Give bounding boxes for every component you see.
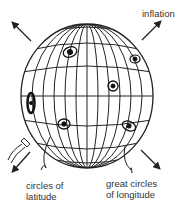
galaxies xyxy=(28,45,141,133)
longitude-label-line2: of longitude xyxy=(106,189,157,200)
galaxy-icon xyxy=(130,55,140,63)
latitude-label-line1: circles of xyxy=(26,180,63,191)
arrow-bottom-right xyxy=(141,150,158,167)
great-circles-of-longitude-label: great circles of longitude xyxy=(106,178,157,200)
arrow-top-left xyxy=(14,24,31,41)
arrow-top-right xyxy=(142,23,159,40)
galaxy-icon xyxy=(62,45,79,59)
balloon-globe-diagram xyxy=(0,0,188,209)
inflation-label: inflation xyxy=(142,8,175,19)
galaxy-icon xyxy=(108,81,118,91)
globe xyxy=(20,24,154,168)
longitude-label-line1: great circles xyxy=(106,178,157,189)
pump-nozzle xyxy=(8,138,30,163)
galaxy-icon xyxy=(58,119,70,129)
circles-of-latitude-label: circles of latitude xyxy=(26,180,63,202)
latitude-pointer xyxy=(41,137,50,170)
latitude-label-line2: latitude xyxy=(26,191,63,202)
